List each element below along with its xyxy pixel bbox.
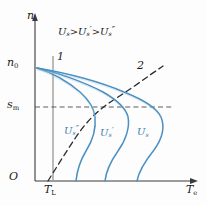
te-subscript: e xyxy=(193,189,197,197)
us0-sub: s xyxy=(145,131,148,138)
x-tick-label-tl: TL xyxy=(44,184,56,197)
figure-container: n n0 sm O Te TL Us>Us′>Us″ 1 2 Us″ Us′ U… xyxy=(0,0,207,205)
curve-soft-echo xyxy=(37,70,161,119)
y-axis-label: n xyxy=(27,10,34,21)
axes-group xyxy=(32,13,198,184)
y-tick-label-sm: sm xyxy=(7,99,19,112)
n0-subscript: 0 xyxy=(14,62,18,70)
curve-us-prime xyxy=(37,68,129,181)
curve-label-us: Us xyxy=(137,127,149,138)
voltage-inequality-annotation: Us>Us′>Us″ xyxy=(58,26,115,37)
origin-label: O xyxy=(9,171,18,182)
ineq-u3-dprime: ″ xyxy=(112,25,115,35)
curve-label-us-prime: Us′ xyxy=(100,127,114,138)
sm-subscript: m xyxy=(13,104,19,112)
y-tick-label-n0: n0 xyxy=(7,57,18,70)
curve-label-us-double-prime: Us″ xyxy=(64,125,79,136)
us1-prime: ′ xyxy=(112,126,114,136)
ineq-gt2: > xyxy=(92,26,100,37)
annotation-curve-2: 2 xyxy=(137,60,144,71)
tl-subscript: L xyxy=(51,189,56,197)
x-axis-label: Te xyxy=(186,184,197,197)
torque-speed-curves-group xyxy=(37,68,163,181)
us2-dprime: ″ xyxy=(76,124,79,134)
ineq-gt1: > xyxy=(70,26,78,37)
annotation-curve-1: 1 xyxy=(57,51,64,62)
curve-us xyxy=(37,68,163,181)
locus-curve-2 xyxy=(48,66,163,181)
